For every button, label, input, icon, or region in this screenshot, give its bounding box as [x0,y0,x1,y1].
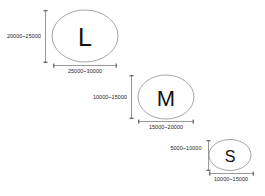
size-letter-large: L [78,23,92,51]
dimension-label-vertical-large: 20000~25000 [7,33,41,39]
dimension-vertical-cap-top-small [207,140,211,141]
size-group-large: L 20000~25000 25000~30000 [7,10,118,74]
dimension-vertical-cap-bottom-large [44,62,48,63]
size-letter-small: S [225,148,236,165]
dimension-horizontal-cap-left-large [53,64,54,68]
dimension-horizontal-large [53,64,117,68]
size-group-small: S 5000~10000 10000~15000 [170,140,254,183]
dimension-vertical-medium [130,75,134,119]
dimension-label-vertical-small: 5000~10000 [170,145,201,151]
diagram-canvas: L 20000~25000 25000~30000 M [0,0,265,196]
dimension-horizontal-cap-right-large [116,64,117,68]
dimension-horizontal-cap-right-small [253,172,254,176]
dimension-horizontal-cap-left-small [209,172,210,176]
dimension-label-horizontal-large: 25000~30000 [68,68,102,74]
dimension-label-horizontal-small: 10000~15000 [214,176,248,182]
dimension-horizontal-cap-left-medium [138,120,139,124]
dimension-horizontal-medium [138,120,194,124]
dimension-vertical-cap-bottom-medium [130,118,134,119]
dimension-vertical-cap-top-large [44,10,48,11]
dimension-vertical-large [44,10,48,63]
dimension-label-horizontal-medium: 15000~20000 [149,124,183,130]
size-group-medium: M 10000~15000 15000~20000 [93,75,194,130]
dimension-vertical-cap-bottom-small [207,170,211,171]
dimension-horizontal-small [209,172,254,176]
dimension-horizontal-cap-right-medium [193,120,194,124]
size-diagram: L 20000~25000 25000~30000 M [0,0,265,196]
dimension-vertical-cap-top-medium [130,75,134,76]
size-letter-medium: M [157,86,175,111]
dimension-label-vertical-medium: 10000~15000 [93,94,127,100]
